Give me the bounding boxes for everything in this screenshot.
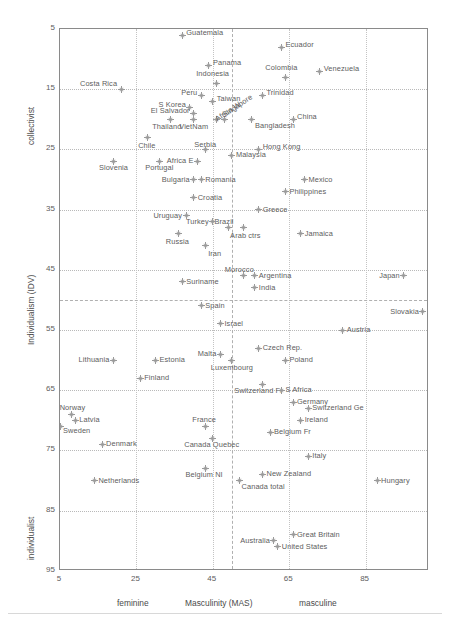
data-point-label: Czech Rep. [263,344,303,351]
data-point-marker[interactable] [198,92,205,99]
data-point-marker[interactable] [259,92,266,99]
data-point-label: Canada Quebec [184,441,239,448]
data-point-marker[interactable] [259,471,266,478]
data-point-marker[interactable] [248,116,255,123]
data-point-marker[interactable] [99,441,106,448]
data-point-marker[interactable] [190,176,197,183]
data-point-marker[interactable] [179,278,186,285]
data-point-marker[interactable] [179,32,186,39]
data-point-label: Uruguay [153,212,182,219]
y-axis-tick-label: 75 [35,444,55,453]
data-point-label: Australia [240,537,270,544]
data-point-label: Ireland [305,416,328,423]
data-point-marker[interactable] [209,98,216,105]
data-point-marker[interactable] [305,405,312,412]
data-point-label: China [297,113,317,120]
data-point-label: Suriname [186,278,218,285]
data-point-label: Austria [347,326,371,333]
data-point-marker[interactable] [118,86,125,93]
data-point-marker[interactable] [213,80,220,87]
data-point-label: Malta [198,350,217,357]
data-point-label: Peru [181,89,197,96]
data-point-label: Turkey [186,218,209,225]
data-point-marker[interactable] [297,417,304,424]
data-point-label: Norway [60,404,86,411]
data-point-label: Arab ctrs [230,232,260,239]
data-point-marker[interactable] [290,531,297,538]
data-point-label: Malaysia [236,151,266,158]
data-point-marker[interactable] [251,272,258,279]
data-point-label: Russia [166,238,189,245]
y-axis-individualist-label: individualist [26,517,36,560]
x-axis-tick-label: 65 [276,574,300,583]
data-point-label: New Zealand [266,470,311,477]
data-point-marker[interactable] [316,68,323,75]
data-point-label: Panama [213,59,241,66]
data-point-label: Bangladesh [255,122,295,129]
gridline-vertical [289,29,290,569]
data-point-marker[interactable] [274,543,281,550]
data-point-label: India [259,284,276,291]
data-point-marker[interactable] [282,188,289,195]
gridline-horizontal [60,330,427,331]
data-point-marker[interactable] [137,375,144,382]
data-point-marker[interactable] [152,357,159,364]
gridline-horizontal [60,511,427,512]
data-point-label: Brazil [215,218,234,225]
data-point-marker[interactable] [198,176,205,183]
data-point-label: VietNam [179,123,208,130]
data-point-marker[interactable] [278,387,285,394]
data-point-label: Slovakia [390,308,419,315]
data-point-label: Trinidad [266,89,293,96]
y-axis-tick-label: 65 [35,384,55,393]
data-point-marker[interactable] [110,357,117,364]
data-point-marker[interactable] [198,302,205,309]
data-point-label: France [192,416,216,423]
data-point-label: Portugal [145,164,173,171]
data-point-marker[interactable] [282,357,289,364]
data-point-marker[interactable] [255,206,262,213]
data-point-marker[interactable] [305,453,312,460]
data-point-label: Indonesia [196,70,229,77]
data-point-marker[interactable] [278,44,285,51]
data-point-label: Lithuania [79,356,110,363]
data-point-label: Belgium Fr [274,428,311,435]
data-point-marker[interactable] [190,194,197,201]
gridline-horizontal [60,210,427,211]
data-point-marker[interactable] [91,477,98,484]
data-point-label: United States [282,543,328,550]
data-point-label: Chile [138,142,155,149]
data-point-label: Canada total [242,483,285,490]
footer-divider [8,613,442,614]
reference-line-horizontal [60,300,427,301]
data-point-label: Switzerland Fr [234,387,283,394]
data-point-label: Greece [263,206,288,213]
data-point-marker[interactable] [194,158,201,165]
data-point-marker[interactable] [255,345,262,352]
data-point-marker[interactable] [282,74,289,81]
data-point-label: Jamaica [305,230,333,237]
y-axis-tick-label: 5 [35,23,55,32]
data-point-marker[interactable] [251,284,258,291]
data-point-marker[interactable] [228,152,235,159]
data-point-marker[interactable] [72,417,79,424]
data-point-marker[interactable] [217,320,224,327]
data-point-label: Belgium NI [186,471,223,478]
data-point-marker[interactable] [301,176,308,183]
x-axis-tick-label: 5 [47,574,71,583]
data-point-marker[interactable] [205,62,212,69]
data-point-label: El Salvador [151,107,190,114]
data-point-marker[interactable] [209,218,216,225]
data-point-marker[interactable] [267,429,274,436]
data-point-label: S Africa [286,386,312,393]
data-point-marker[interactable] [374,477,381,484]
data-point-label: Mexico [308,176,332,183]
data-point-marker[interactable] [339,327,346,334]
data-point-marker[interactable] [217,351,224,358]
data-point-marker[interactable] [297,230,304,237]
data-point-marker[interactable] [419,308,426,315]
y-axis-tick-label: 25 [35,143,55,152]
data-point-marker[interactable] [144,134,151,141]
data-point-marker[interactable] [290,399,297,406]
data-point-marker[interactable] [400,272,407,279]
